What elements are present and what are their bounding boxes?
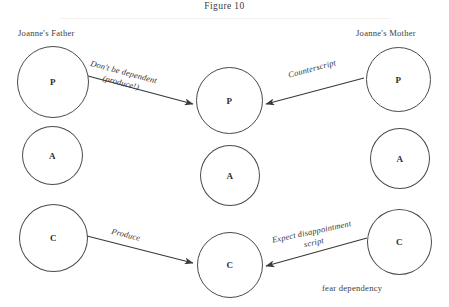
ego-state-joanne-parent: P — [196, 67, 263, 134]
ego-state-joanne-child: C — [197, 232, 263, 298]
ego-state-father-adult: A — [22, 126, 83, 185]
ego-state-mother-child: C — [367, 209, 432, 275]
ego-state-mother-parent: P — [366, 47, 431, 112]
arrow-father-child-to-joanne-child — [87, 236, 193, 263]
ego-state-letter: C — [198, 233, 262, 297]
ego-state-letter: C — [368, 210, 431, 274]
ego-state-letter: P — [197, 68, 262, 133]
ego-state-father-child: C — [19, 204, 88, 272]
ego-state-joanne-adult: A — [200, 145, 260, 206]
ego-state-letter: P — [18, 47, 88, 117]
ego-state-mother-adult: A — [370, 128, 430, 189]
ego-state-letter: A — [201, 146, 259, 205]
ego-state-letter: A — [23, 127, 82, 184]
ego-state-letter: A — [371, 129, 429, 188]
figure-container: Figure 10 Joanne's Father Joanne's Mothe… — [0, 0, 449, 307]
ego-state-letter: C — [20, 205, 87, 271]
arrow-mother-parent-to-joanne-parent — [266, 78, 364, 104]
ego-state-letter: P — [367, 48, 430, 111]
figure-note-fear-dependency: fear dependency — [322, 283, 382, 293]
ego-state-father-parent: P — [17, 46, 89, 118]
